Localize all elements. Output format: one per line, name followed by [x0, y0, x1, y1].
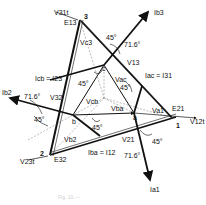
label-v12t: V12t	[190, 118, 204, 125]
angle-716-top: 71.6°	[124, 41, 141, 48]
angle-45-bottom: 45°	[92, 124, 103, 131]
label-e21: E21	[172, 105, 185, 112]
node-1: 1	[176, 122, 180, 129]
angle-716-left: 71.6°	[24, 93, 41, 100]
angle-45-c: 45°	[78, 80, 89, 87]
label-icb: Icb = I23	[35, 75, 62, 82]
label-v32: V32	[50, 94, 63, 101]
label-va1: Va1	[152, 107, 164, 114]
angle-45-top: 45°	[106, 34, 117, 41]
node-3: 3	[84, 13, 88, 20]
label-vcb: Vcb	[86, 98, 98, 105]
node-b: b	[72, 118, 76, 125]
label-vb2: Vb2	[64, 136, 77, 143]
label-vac: Vac	[115, 76, 127, 83]
node-a: a	[133, 114, 137, 121]
label-ib2: Ib2	[2, 89, 12, 96]
angle-45-left: 45°	[34, 116, 45, 123]
label-e13: E13	[64, 19, 77, 26]
angle-716-bottom: 71.6°	[124, 152, 141, 159]
label-vba: Vba	[111, 105, 124, 112]
angle-45-right: 45°	[152, 138, 163, 145]
phasor-diagram: 3 2 1 c b a V31t E13 Vc3 Ib3 V13 Icb = I…	[0, 0, 206, 205]
label-iac: Iac = I31	[145, 72, 172, 79]
node-2: 2	[40, 150, 44, 157]
figure-caption: Fig. 10.—	[58, 194, 80, 200]
label-iba: Iba = I12	[88, 149, 116, 156]
label-ib3: Ib3	[154, 9, 164, 16]
angle-45-ac: 45°	[120, 84, 131, 91]
label-v23t: V23t	[20, 158, 34, 165]
label-v13: V13	[127, 59, 140, 66]
angle-arcs	[30, 44, 152, 135]
label-ia1: Ia1	[150, 186, 160, 193]
label-v31t: V31t	[54, 9, 68, 16]
label-vc3: Vc3	[80, 39, 92, 46]
label-e32: E32	[54, 156, 67, 163]
label-v21: V21	[122, 136, 135, 143]
node-c: c	[102, 65, 106, 72]
